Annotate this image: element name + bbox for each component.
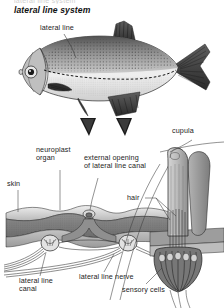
label-lateral-line-nerve: lateral line nerve bbox=[79, 273, 134, 281]
arrow-down-icon-right bbox=[116, 118, 132, 136]
label-sensory-cells: sensory cells bbox=[122, 286, 165, 294]
label-lateral-line-canal: lateral line canal bbox=[19, 277, 53, 294]
label-neuroplast-organ: neuroplast organ bbox=[36, 146, 71, 163]
label-hair: hair bbox=[127, 194, 139, 202]
label-lateral-line: lateral line bbox=[40, 24, 74, 32]
arrow-down-icon-left bbox=[80, 118, 96, 136]
label-cupula: cupula bbox=[172, 127, 194, 135]
figure-canvas: lateral line system bbox=[0, 0, 224, 308]
figure-title: lateral line system bbox=[14, 5, 90, 15]
sensory-cells-cluster bbox=[154, 247, 202, 308]
label-skin: skin bbox=[7, 180, 20, 188]
neuroplast-organ-right bbox=[119, 235, 137, 251]
fish-illustration bbox=[19, 21, 210, 116]
neuroplast-organ-left bbox=[41, 235, 59, 251]
label-external-opening: external opening of lateral line canal bbox=[84, 154, 146, 171]
